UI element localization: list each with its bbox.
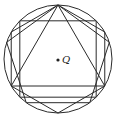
pentagon-polygon: [7, 5, 110, 103]
center-point: [56, 58, 59, 61]
inscribed-polygons-diagram: Q: [0, 0, 115, 115]
triangle-polygon: [11, 5, 105, 86]
center-label: Q: [62, 54, 70, 65]
